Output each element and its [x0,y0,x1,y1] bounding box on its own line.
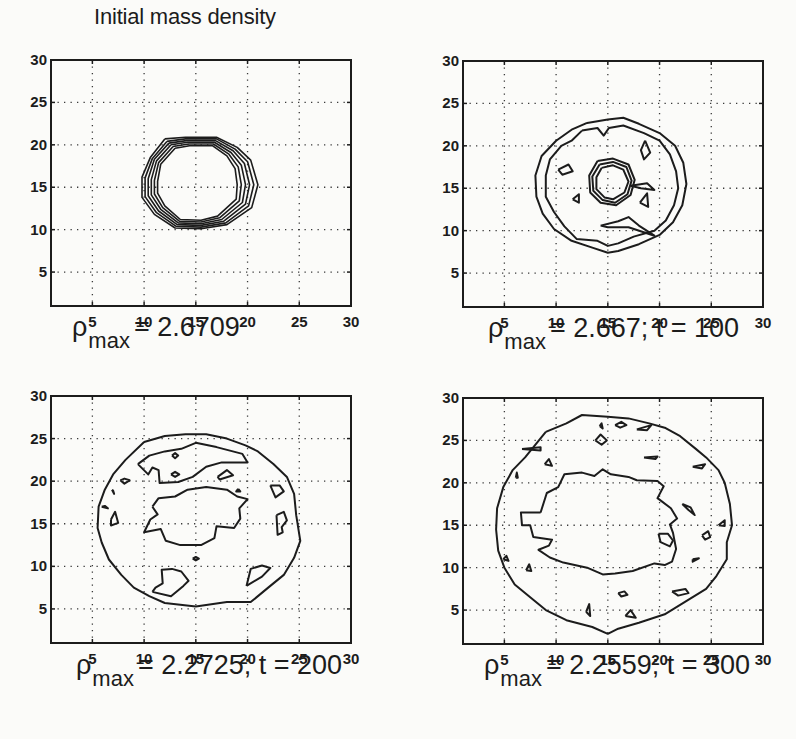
panel-caption: ρmax= 2.6709 [72,312,240,343]
contour-line [596,165,628,199]
y-tick-label: 10 [429,222,459,239]
contour-line [535,118,686,253]
contour-line [172,453,178,458]
subscript-max: max [92,666,134,691]
contour-line [702,531,710,540]
contour-line [503,556,508,561]
contour-line [522,447,541,450]
contour-line [592,162,631,203]
x-tick-label: 30 [336,313,366,330]
contour-line [601,217,655,236]
y-tick-label: 30 [17,387,47,404]
contour-line [693,558,699,561]
contour-line [521,469,677,574]
y-tick-label: 20 [429,474,459,491]
panel-caption: ρmax= 2.2725; t = 200 [76,650,342,681]
y-tick-label: 10 [429,559,459,576]
y-tick-label: 15 [17,515,47,532]
y-tick-label: 5 [17,600,47,617]
contour-line [218,470,234,479]
figure: Initial mass density 5101520253030252015… [0,0,796,739]
contour-line [573,194,579,203]
panel-caption: ρmax= 2.667; t = 100 [488,313,739,344]
x-tick-label: 25 [284,313,314,330]
y-tick-label: 30 [429,52,459,69]
contour-line [672,589,689,596]
subscript-max: max [500,666,542,691]
y-tick-label: 5 [429,264,459,281]
y-tick-label: 10 [17,221,47,238]
y-tick-label: 5 [17,263,47,280]
contour-line [158,146,238,221]
y-tick-label: 5 [429,601,459,618]
contour-line [615,422,626,428]
contour-line [640,193,648,207]
contour-line [600,423,603,428]
contour-line [138,443,248,483]
x-tick-label: 30 [748,651,778,668]
contour-line [247,566,271,586]
contour-axes [463,398,763,644]
y-tick-label: 20 [17,472,47,489]
caption-value: = 2.667; t = 100 [550,313,739,343]
contour-line [641,141,650,160]
contour-line [516,473,518,478]
contour-line [270,485,284,497]
contour-line [236,489,240,492]
contour-line [625,610,635,618]
y-tick-label: 15 [17,178,47,195]
contour-line [719,520,725,526]
y-tick-label: 20 [17,136,47,153]
contour-line [644,457,658,460]
rho-symbol: ρ [488,313,503,343]
contour-line [111,512,118,526]
contour-axes [463,61,763,307]
y-tick-label: 25 [17,430,47,447]
contour-line [618,591,627,596]
y-tick-label: 15 [429,179,459,196]
contour-line [144,487,248,545]
contour-line [98,434,301,606]
contour-line [171,472,179,477]
y-tick-label: 15 [429,516,459,533]
contour-line [558,165,573,175]
rho-symbol: ρ [76,650,91,680]
figure-title: Initial mass density [94,4,276,30]
contour-line [659,534,674,547]
axes-frame [463,398,763,644]
y-tick-label: 30 [17,51,47,68]
contour-axes [51,396,351,643]
y-tick-label: 20 [429,137,459,154]
caption-value: = 2.6709 [134,312,240,342]
y-tick-label: 25 [429,94,459,111]
contour-line [637,425,652,430]
contour-line [595,435,606,445]
axes-frame [51,60,351,306]
axes-frame [463,61,763,307]
contour-line [120,479,129,484]
contour-line [102,506,108,509]
panel-caption: ρmax= 2.2559; t = 300 [484,650,750,681]
caption-value: = 2.2559; t = 300 [546,650,750,680]
y-tick-label: 10 [17,557,47,574]
y-tick-label: 30 [429,389,459,406]
x-tick-label: 30 [748,314,778,331]
contour-line [112,490,114,494]
rho-symbol: ρ [484,650,499,680]
contour-line [545,459,552,466]
rho-symbol: ρ [72,312,87,342]
y-tick-label: 25 [17,93,47,110]
contour-axes [51,60,351,306]
contour-line [693,464,705,468]
contour-line [682,504,694,515]
contour-line [631,183,655,190]
y-tick-label: 25 [429,431,459,448]
contour-line [586,604,590,616]
subscript-max: max [504,329,546,354]
subscript-max: max [88,328,130,353]
contour-line [277,512,287,535]
contour-line [152,569,188,596]
caption-value: = 2.2725; t = 200 [138,650,342,680]
